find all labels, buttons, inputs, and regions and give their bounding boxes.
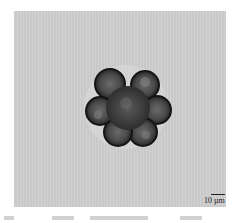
cell-cluster	[14, 11, 226, 207]
cropped-caption-text	[0, 214, 236, 223]
scale-bar	[211, 194, 225, 195]
micrograph-panel: 10 µm	[14, 11, 226, 207]
scale-bar-label: 10 µm	[204, 196, 225, 205]
